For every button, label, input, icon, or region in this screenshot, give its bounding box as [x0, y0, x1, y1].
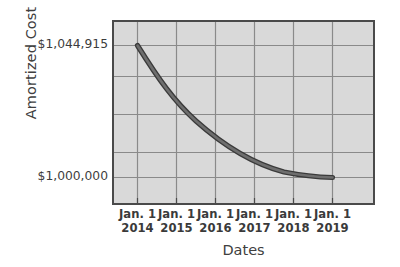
plot-area — [112, 20, 375, 205]
x-axis-tick-labels: Jan. 1 2014 Jan. 1 2015 Jan. 1 2016 Jan.… — [112, 208, 375, 240]
chart-figure: Amortized Cost $1,044,915 $1,000,000 — [0, 0, 400, 267]
x-axis-tick-label-2019: Jan. 1 2019 — [303, 208, 363, 235]
y-axis-title: Amortized Cost — [20, 0, 42, 143]
x-axis-title: Dates — [112, 242, 375, 258]
plot-svg — [114, 22, 373, 203]
y-axis-tick-label-bottom: $1,000,000 — [0, 169, 108, 183]
amortized-cost-curve — [138, 46, 333, 178]
y-axis-tick-label-top: $1,044,915 — [0, 37, 108, 51]
x-axis-tick-marks — [138, 198, 333, 203]
x-tick-year: 2019 — [303, 222, 363, 236]
x-tick-monthday: Jan. 1 — [314, 207, 351, 221]
